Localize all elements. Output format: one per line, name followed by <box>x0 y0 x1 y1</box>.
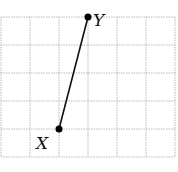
point-y <box>85 14 92 21</box>
label-x: X <box>34 133 49 153</box>
grid <box>1 17 175 157</box>
label-y: Y <box>93 10 106 30</box>
point-x <box>56 126 63 133</box>
grid-diagram: X Y <box>0 0 178 172</box>
